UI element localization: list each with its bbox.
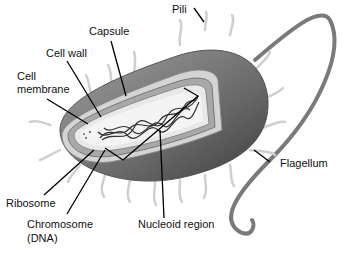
cell-illustration [0,0,345,255]
label-chromosome-line2: (DNA) [27,232,58,244]
label-cell-wall: Cell wall [46,47,87,59]
label-flagellum: Flagellum [280,157,328,169]
label-ribosome: Ribosome [6,197,56,209]
label-pili: Pili [172,3,187,15]
label-nucleoid-region: Nucleoid region [138,218,214,230]
label-chromosome-line1: Chromosome [27,218,93,230]
label-cell-membrane-line2: membrane [17,83,70,95]
label-capsule: Capsule [89,25,129,37]
label-cell-membrane-line1: Cell [17,70,36,82]
prokaryotic-cell-diagram: Pili Capsule Cell wall Cell membrane Fla… [0,0,345,255]
